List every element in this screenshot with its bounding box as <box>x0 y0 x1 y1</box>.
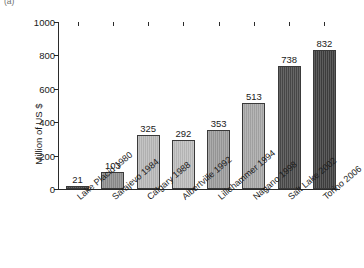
y-tick-label: 600 <box>39 83 55 94</box>
panel-label: (a) <box>4 0 14 6</box>
bar-value-label: 353 <box>211 118 227 129</box>
bar-value-label: 292 <box>175 128 191 139</box>
x-tick-mark <box>324 22 325 26</box>
y-tick-label: 800 <box>39 50 55 61</box>
y-axis-line <box>58 22 59 189</box>
bar-value-label: 325 <box>140 123 156 134</box>
x-tick-mark <box>183 22 184 26</box>
bar-value-label: 513 <box>246 91 262 102</box>
x-tick-mark <box>254 22 255 26</box>
x-tick-mark <box>148 22 149 26</box>
bar-value-label: 21 <box>72 174 83 185</box>
x-tick-mark <box>289 22 290 26</box>
y-tick-label: 0 <box>50 184 55 195</box>
bar-value-label: 738 <box>281 54 297 65</box>
x-tick-mark <box>113 22 114 26</box>
x-tick-mark <box>219 22 220 26</box>
x-tick-mark <box>78 22 79 26</box>
bar-value-label: 832 <box>316 38 332 49</box>
plot-area: 02004006008001000 2110332529235351373883… <box>58 22 340 189</box>
y-tick-label: 200 <box>39 150 55 161</box>
y-tick-label: 400 <box>39 117 55 128</box>
y-tick-label: 1000 <box>34 17 55 28</box>
